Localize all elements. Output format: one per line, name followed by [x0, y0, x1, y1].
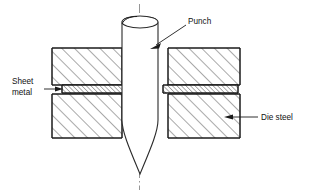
punch-leader-line — [156, 25, 186, 45]
hatch-fill-sheet-left — [62, 85, 127, 93]
hatch-fill-lower-left — [52, 94, 122, 138]
hatch-fill-sheet-right — [163, 85, 238, 93]
hatch-fill-upper-right — [168, 48, 240, 85]
sheet-metal-label-line2: metal — [12, 88, 32, 97]
diagram-canvas: Punch Sheet metal Die steel — [0, 0, 310, 196]
sheet-metal-left — [62, 85, 127, 93]
die-steel-label: Die steel — [261, 113, 293, 122]
upper-die-block-left — [52, 48, 122, 85]
hatch-fill-upper-left — [52, 48, 122, 85]
punch-annotation: Punch — [150, 17, 212, 49]
sheet-metal-label-line1: Sheet — [12, 77, 34, 86]
punch-label: Punch — [188, 17, 212, 26]
sheet-metal-right — [163, 85, 238, 93]
punch — [122, 16, 158, 174]
lower-die-block-left — [52, 94, 122, 138]
upper-die-block-right — [168, 48, 240, 85]
punch-die-diagram: Punch Sheet metal Die steel — [0, 0, 310, 196]
